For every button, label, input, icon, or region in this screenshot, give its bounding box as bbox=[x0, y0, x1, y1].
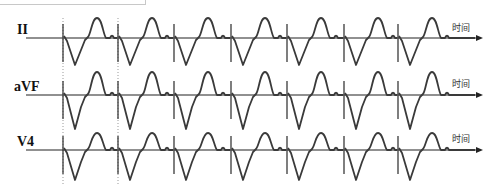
ecg-trace-avf bbox=[64, 72, 475, 129]
ecg-strip bbox=[0, 0, 483, 189]
ecg-trace-v4 bbox=[64, 133, 475, 180]
arrow-head-icon bbox=[476, 147, 483, 153]
ecg-trace-ii bbox=[64, 18, 475, 65]
arrow-head-icon bbox=[476, 92, 483, 98]
arrow-head-icon bbox=[476, 35, 483, 41]
